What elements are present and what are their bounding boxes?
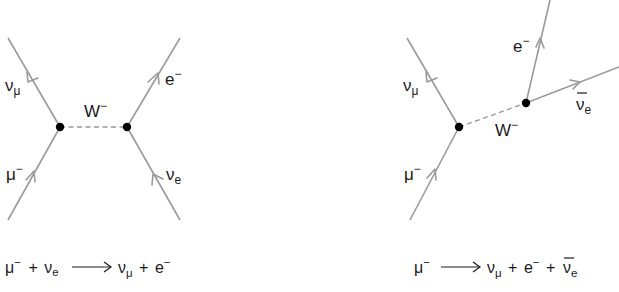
right-reaction-arrow-icon	[441, 262, 480, 272]
left-muon-label: μ−	[6, 162, 23, 184]
right-equation-products: νμ + e− +	[487, 252, 555, 280]
svg-text:νe: νe	[576, 95, 592, 117]
left-vertex-b	[123, 123, 131, 131]
left-equation: μ− + νe	[5, 252, 59, 278]
right-vertex-c	[455, 123, 463, 131]
svg-text:νe: νe	[563, 259, 577, 279]
left-w-label: W−	[84, 99, 107, 121]
right-electron-label: e−	[513, 34, 529, 56]
right-antinue-label: νe	[576, 93, 592, 117]
left-numu-label: νμ	[5, 76, 21, 98]
left-nue-label: νe	[166, 165, 182, 187]
left-equation-products: νμ + e−	[118, 256, 171, 280]
right-muon-label: μ−	[404, 162, 421, 184]
right-w-label: W−	[495, 118, 518, 140]
right-electron-line	[526, 0, 550, 103]
left-electron-label: e−	[165, 67, 181, 89]
right-numu-label: νμ	[403, 76, 419, 98]
right-vertex-d	[522, 99, 530, 107]
right-equation-antinue: νe	[563, 258, 577, 279]
right-diagram: νμ W− μ− e− νe μ− νμ + e− +	[403, 0, 619, 280]
left-vertex-a	[56, 123, 64, 131]
right-antinue-line	[526, 67, 619, 103]
left-numu-line	[8, 38, 60, 127]
left-reaction-arrow-icon	[72, 262, 111, 272]
right-equation: μ−	[414, 256, 430, 276]
left-diagram: νμ W− μ− e− νe μ− + νe νμ + e−	[5, 38, 182, 280]
right-numu-line	[407, 38, 459, 127]
feynman-diagrams: νμ W− μ− e− νe μ− + νe νμ + e−	[0, 0, 619, 292]
